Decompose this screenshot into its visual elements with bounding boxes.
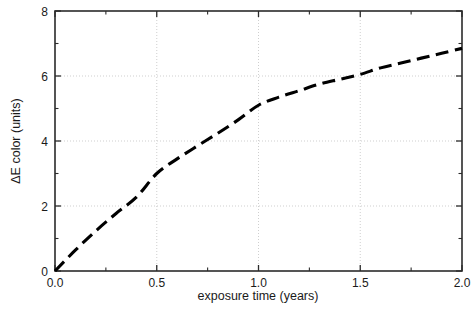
x-axis-label: exposure time (years) (198, 289, 319, 303)
x-tick-label: 0.0 (47, 276, 64, 290)
chart-figure: 0.00.51.01.52.0 02468 exposure time (yea… (0, 0, 476, 309)
y-tick-label: 4 (41, 135, 48, 149)
figure-background (0, 0, 476, 309)
y-tick-label: 0 (41, 265, 48, 279)
y-tick-label: 8 (41, 5, 48, 19)
y-tick-label: 2 (41, 200, 48, 214)
x-tick-label: 1.0 (250, 276, 267, 290)
y-axis-label: ΔE color (units) (9, 98, 23, 183)
y-tick-label: 6 (41, 70, 48, 84)
x-tick-label: 2.0 (454, 276, 471, 290)
x-tick-label: 1.5 (352, 276, 369, 290)
x-tick-label: 0.5 (148, 276, 165, 290)
